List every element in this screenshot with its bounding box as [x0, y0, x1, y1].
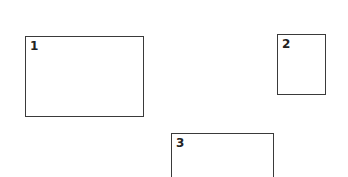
region-label-1: 1	[30, 39, 38, 53]
region-box-2: 2	[277, 34, 326, 95]
region-box-3: 3	[171, 133, 274, 177]
region-box-1: 1	[25, 36, 144, 117]
region-label-3: 3	[176, 136, 184, 150]
region-label-2: 2	[282, 37, 290, 51]
